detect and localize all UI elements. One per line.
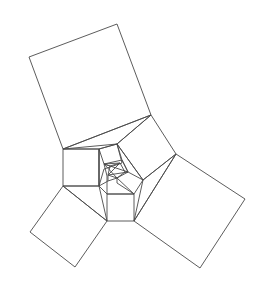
bottom-left-square [30, 186, 107, 267]
left-square [63, 149, 99, 186]
bottom-square [107, 194, 134, 221]
right-triangle [134, 154, 176, 221]
spiral-squares-diagram [0, 0, 263, 295]
top-triangle [63, 115, 151, 149]
shape-layer [29, 24, 245, 268]
core-detail [63, 144, 143, 194]
diagram-canvas [0, 0, 263, 295]
right-square [134, 154, 245, 268]
bottom-left-triangle [63, 186, 107, 221]
